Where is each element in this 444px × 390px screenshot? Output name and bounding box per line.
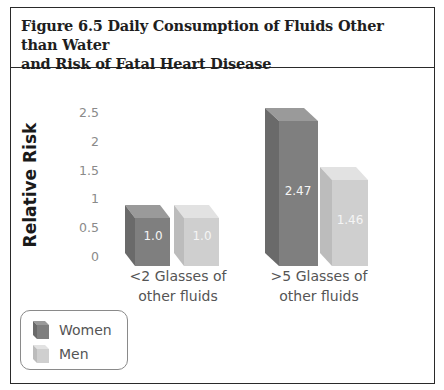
bar-value-women-lt2: 1.0 bbox=[132, 229, 174, 243]
bar-value-women-gt5: 2.47 bbox=[276, 184, 320, 198]
category-label-lt2-line-1: <2 Glasses of bbox=[108, 266, 248, 286]
chart-legend: Women Men bbox=[20, 310, 128, 370]
women-swatch-icon bbox=[33, 321, 49, 339]
category-label-gt5-line-2: other fluids bbox=[249, 286, 389, 306]
men-swatch-icon bbox=[33, 345, 49, 363]
category-label-lt2: <2 Glasses of other fluids bbox=[108, 266, 248, 306]
bar-value-men-gt5: 1.46 bbox=[329, 213, 371, 227]
legend-label-men: Men bbox=[59, 343, 89, 365]
category-label-gt5-line-1: >5 Glasses of bbox=[249, 266, 389, 286]
legend-label-women: Women bbox=[59, 319, 112, 341]
category-label-lt2-line-2: other fluids bbox=[108, 286, 248, 306]
category-label-gt5: >5 Glasses of other fluids bbox=[249, 266, 389, 306]
bar-value-men-lt2: 1.0 bbox=[181, 229, 223, 243]
